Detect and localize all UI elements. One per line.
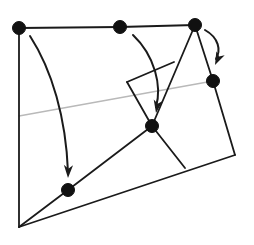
top-right-vertex-dot: [189, 19, 202, 32]
center-vertex-dot: [146, 120, 159, 133]
top-middle-vertex-dot: [114, 21, 127, 34]
figure-container: [0, 0, 254, 245]
quadrilateral-vertex-motion-diagram: [0, 0, 254, 245]
diagram-background: [0, 0, 254, 245]
right-edge-vertex-dot: [207, 75, 220, 88]
top-left-vertex-dot: [13, 22, 26, 35]
lower-left-diagonal-vertex-dot: [62, 184, 75, 197]
